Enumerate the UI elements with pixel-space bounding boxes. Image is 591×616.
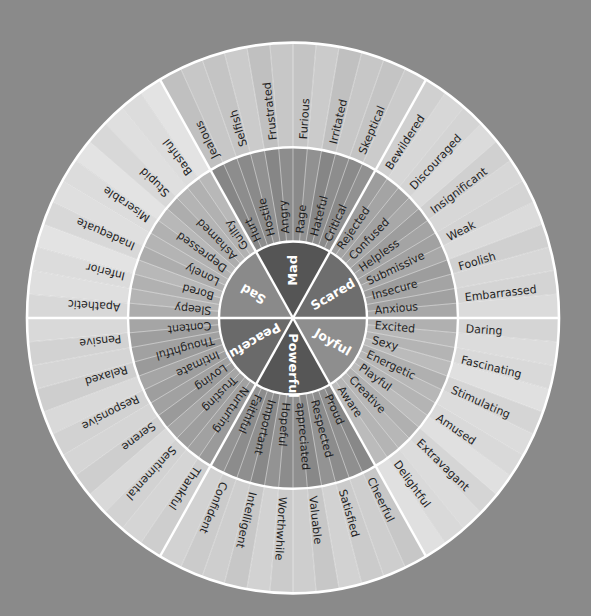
core-label-powerful: Powerful [286, 333, 301, 398]
wheel-segments [27, 43, 559, 594]
outer-label-furious: Furious [297, 98, 312, 140]
wheel-group: Scared Mad Sad Peaceful Powerful Joyful … [27, 43, 559, 594]
outer-label-daring: Daring [465, 322, 502, 338]
core-label-mad: Mad [286, 255, 301, 286]
emotion-wheel: Scared Mad Sad Peaceful Powerful Joyful … [0, 0, 591, 616]
middle-label-rage: Rage [294, 204, 309, 234]
